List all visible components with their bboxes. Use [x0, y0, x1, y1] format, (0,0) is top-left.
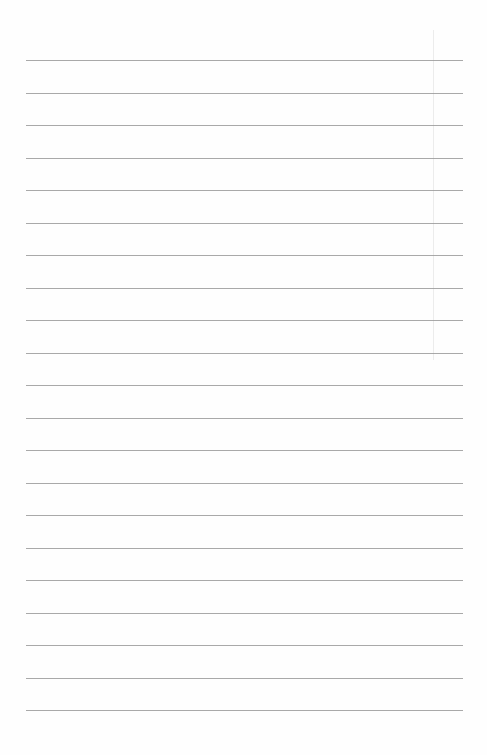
lined-paper-page [0, 0, 487, 755]
ruled-line [26, 515, 463, 516]
ruled-line [26, 645, 463, 646]
ruled-line [26, 288, 463, 289]
ruled-line [26, 223, 463, 224]
ruled-line [26, 418, 463, 419]
ruled-line [26, 353, 463, 354]
ruled-line [26, 60, 463, 61]
ruled-line [26, 255, 463, 256]
ruled-line [26, 613, 463, 614]
ruled-line [26, 483, 463, 484]
ruled-line [26, 125, 463, 126]
ruled-line [26, 158, 463, 159]
ruled-line [26, 93, 463, 94]
ruled-line [26, 450, 463, 451]
ruled-line [26, 385, 463, 386]
ruled-line [26, 710, 463, 711]
ruled-line [26, 678, 463, 679]
ruled-line [26, 580, 463, 581]
ruled-line [26, 320, 463, 321]
ruled-line [26, 190, 463, 191]
ruled-line [26, 548, 463, 549]
faint-vertical-mark [433, 30, 434, 360]
